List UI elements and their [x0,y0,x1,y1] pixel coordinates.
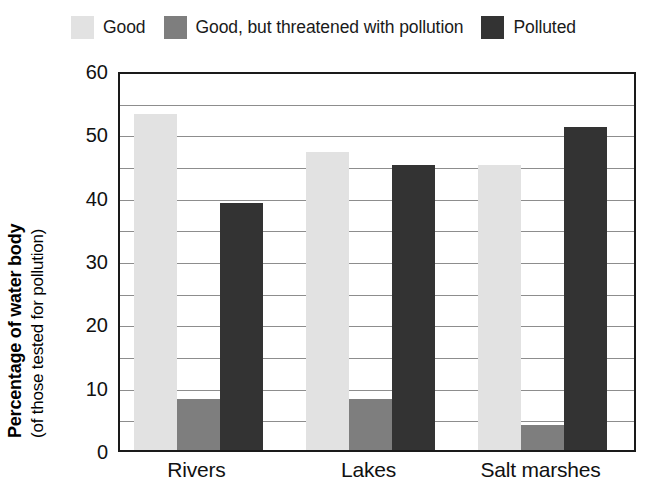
x-tick-label-rivers: Rivers [167,458,225,482]
y-tick-label-50: 50 [86,124,108,147]
bar-rivers-polluted [220,203,263,450]
bar-lakes-good [306,152,349,450]
y-tick-label-40: 40 [86,187,108,210]
y-axis-title-group: Percentage of water body (of those teste… [0,60,72,460]
bar-lakes-good [349,399,392,450]
legend-swatch-threatened [164,16,187,39]
bar-rivers-good [134,114,177,450]
bar-salt-marshes-good [521,425,564,450]
y-axis-title-main: Percentage of water body [5,224,26,438]
x-tick-label-lakes: Lakes [341,458,396,482]
x-tick-label-salt-marshes: Salt marshes [480,458,600,482]
bar-rivers-good [177,399,220,450]
y-tick-label-60: 60 [86,61,108,84]
legend-label-polluted: Polluted [513,17,575,38]
y-axis-tick-labels: 0102030405060 [72,0,114,495]
y-axis-title-sub: (of those tested for pollution) [28,229,48,438]
y-tick-label-10: 10 [86,377,108,400]
bar-salt-marshes-good [478,165,521,450]
y-tick-label-0: 0 [97,441,108,464]
bar-salt-marshes-polluted [564,127,607,450]
y-tick-label-20: 20 [86,314,108,337]
x-axis-category-labels: RiversLakesSalt marshes [118,458,636,492]
bars-layer [120,74,634,450]
legend-item-threatened: Good, but threatened with pollution [164,16,464,39]
bar-lakes-polluted [392,165,435,450]
bar-chart-figure: Good Good, but threatened with pollution… [0,0,647,495]
plot-area [118,72,636,452]
legend-item-polluted: Polluted [481,16,575,39]
legend-label-threatened: Good, but threatened with pollution [196,17,464,38]
y-tick-label-30: 30 [86,251,108,274]
legend-swatch-polluted [481,16,504,39]
